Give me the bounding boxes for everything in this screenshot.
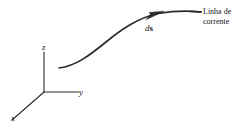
axis-label-y: y	[79, 88, 83, 97]
x-axis-line	[12, 92, 44, 120]
streamline-label-line-1: Linha de	[203, 7, 231, 17]
streamline-curve	[59, 11, 201, 68]
axis-label-x: x	[11, 114, 15, 123]
axis-label-z: z	[42, 43, 46, 52]
displacement-vector-s: s	[150, 23, 154, 33]
coordinate-axes	[12, 52, 79, 120]
differential-element-label: ds	[145, 24, 153, 33]
streamline-diagram: z y x ds Linha de corrente	[0, 0, 251, 130]
streamline-path	[59, 11, 201, 68]
streamline-label-line-2: corrente	[203, 17, 231, 27]
streamline-label: Linha de corrente	[203, 7, 231, 27]
